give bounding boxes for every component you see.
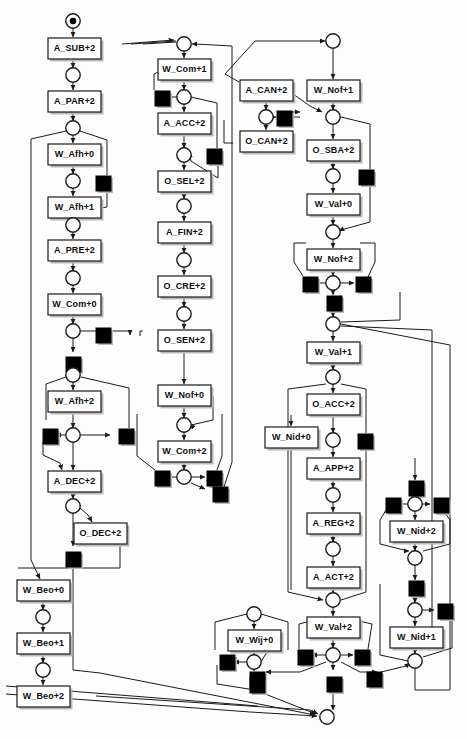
silent-transition[interactable] (66, 552, 83, 569)
silent-transition[interactable] (303, 277, 320, 294)
transition-a-par-2[interactable]: A_PAR+2 (48, 91, 104, 115)
place[interactable] (326, 225, 340, 239)
transition-o-cre-2[interactable]: O_CRE+2 (158, 276, 214, 300)
place[interactable] (326, 34, 340, 48)
silent-transition[interactable] (250, 678, 267, 695)
transition-o-dec-2[interactable]: O_DEC+2 (74, 523, 130, 547)
transition-o-acc-2[interactable]: O_ACC+2 (307, 394, 363, 418)
silent-transition[interactable] (119, 429, 136, 446)
place[interactable] (259, 110, 273, 124)
silent-transition[interactable] (43, 429, 60, 446)
place[interactable] (408, 551, 422, 565)
place[interactable] (177, 470, 191, 484)
silent-transition[interactable] (409, 481, 426, 498)
place[interactable] (66, 174, 80, 188)
silent-transition[interactable] (155, 471, 172, 488)
transition-a-app-2[interactable]: A_APP+2 (307, 458, 363, 482)
silent-transition[interactable] (438, 604, 455, 621)
place[interactable] (66, 368, 80, 382)
silent-transition[interactable] (327, 677, 344, 694)
silent-transition[interactable] (409, 581, 426, 598)
silent-transition[interactable] (359, 170, 376, 187)
silent-transition[interactable] (220, 655, 237, 672)
transition-o-sen-2[interactable]: O_SEN+2 (158, 330, 214, 354)
transition-a-can-2[interactable]: A_CAN+2 (240, 80, 296, 104)
place[interactable] (408, 497, 422, 511)
transition-w-com-1[interactable]: W_Com+1 (158, 59, 214, 83)
transition-w-com-2[interactable]: W_Com+2 (158, 441, 214, 465)
silent-transition[interactable] (386, 498, 403, 515)
transition-o-sba-2[interactable]: O_SBA+2 (307, 140, 363, 164)
silent-transition[interactable] (155, 91, 172, 108)
place[interactable] (66, 121, 80, 135)
transition-a-sub-2[interactable]: A_SUB+2 (48, 38, 104, 62)
place[interactable] (36, 663, 50, 677)
place[interactable] (66, 499, 80, 513)
place[interactable] (408, 603, 422, 617)
transition-o-can-2[interactable]: O_CAN+2 (240, 131, 296, 155)
silent-transition[interactable] (277, 111, 294, 128)
transition-w-beo-0[interactable]: W_Beo+0 (17, 580, 73, 604)
silent-transition[interactable] (356, 277, 373, 294)
place[interactable] (66, 218, 80, 232)
transition-w-val-2[interactable]: W_Val+2 (307, 617, 363, 641)
silent-transition[interactable] (96, 176, 113, 193)
transition-a-act-2[interactable]: A_ACT+2 (307, 567, 363, 591)
place[interactable] (326, 110, 340, 124)
transition-w-nof-1[interactable]: W_Nof+1 (307, 80, 363, 104)
place[interactable] (177, 307, 191, 321)
silent-transition[interactable] (358, 434, 375, 451)
place[interactable] (326, 488, 340, 502)
transition-w-wij-0[interactable]: W_Wij+0 (228, 630, 284, 654)
transition-a-pre-2[interactable]: A_PRE+2 (48, 240, 104, 264)
transition-w-nid-0[interactable]: W_Nid+0 (265, 427, 321, 451)
place[interactable] (66, 324, 80, 338)
place[interactable] (177, 253, 191, 267)
transition-o-sel-2[interactable]: O_SEL+2 (158, 171, 214, 195)
place[interactable] (177, 199, 191, 213)
silent-transition[interactable] (298, 650, 315, 667)
place[interactable] (326, 593, 340, 607)
place[interactable] (326, 648, 340, 662)
place[interactable] (36, 610, 50, 624)
transition-w-afh-0[interactable]: W_Afh+0 (48, 144, 104, 168)
transition-a-dec-2[interactable]: A_DEC+2 (48, 471, 104, 495)
place[interactable] (177, 148, 191, 162)
silent-transition[interactable] (434, 498, 451, 515)
transition-a-acc-2[interactable]: A_ACC+2 (158, 113, 214, 137)
silent-transition[interactable] (96, 328, 113, 345)
place[interactable] (177, 90, 191, 104)
place[interactable] (408, 654, 422, 668)
place[interactable] (326, 169, 340, 183)
place[interactable] (320, 710, 334, 724)
transition-w-com-0[interactable]: W_Com+0 (48, 294, 104, 318)
transition-w-beo-2[interactable]: W_Beo+2 (17, 686, 73, 710)
transition-a-fin-2[interactable]: A_FIN+2 (158, 222, 214, 246)
place[interactable] (177, 418, 191, 432)
transition-w-afh-1[interactable]: W_Afh+1 (48, 197, 104, 221)
silent-transition[interactable] (213, 487, 230, 504)
transition-w-nid-1[interactable]: W_Nid+1 (390, 627, 446, 651)
transition-w-val-0[interactable]: W_Val+0 (307, 194, 363, 218)
transition-w-beo-1[interactable]: W_Beo+1 (17, 633, 73, 657)
transition-w-nof-2[interactable]: W_Nof+2 (307, 249, 363, 273)
silent-transition[interactable] (327, 296, 344, 313)
silent-transition[interactable] (207, 149, 224, 166)
place[interactable] (247, 607, 261, 621)
place[interactable] (66, 428, 80, 442)
place[interactable] (247, 655, 261, 669)
transition-a-reg-2[interactable]: A_REG+2 (307, 513, 363, 537)
silent-transition[interactable] (355, 650, 372, 667)
place-with-token[interactable] (66, 14, 80, 28)
transition-w-afh-2[interactable]: W_Afh+2 (48, 391, 104, 415)
place[interactable] (177, 37, 191, 51)
transition-w-nof-0[interactable]: W_Nof+0 (158, 385, 214, 409)
transition-w-val-1[interactable]: W_Val+1 (307, 342, 363, 366)
place[interactable] (66, 68, 80, 82)
place[interactable] (326, 370, 340, 384)
place[interactable] (326, 542, 340, 556)
place[interactable] (326, 317, 340, 331)
transition-w-nid-2[interactable]: W_Nid+2 (390, 521, 446, 545)
place[interactable] (66, 271, 80, 285)
place[interactable] (326, 433, 340, 447)
